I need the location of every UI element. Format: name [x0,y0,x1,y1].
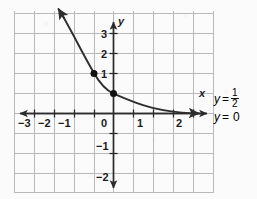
x-tick-label--1: −1 [58,118,71,129]
y-tick-label--2: −2 [96,172,109,183]
base-fraction-annotation: y = 1 2 [214,88,239,109]
asymptote-variable: y [214,110,220,124]
x-tick-label--2: −2 [38,118,51,129]
asymptote-operator: = [222,110,229,124]
x-tick-label-0: 0 [101,118,107,129]
y-tick-label-2: 2 [101,49,107,60]
x-tick-label-2: 2 [176,118,182,129]
asymptote-annotation: y = 0 [214,110,242,124]
data-point-0-1 [110,90,117,97]
fraction-denominator: 2 [231,98,239,109]
data-point-neg1-2 [91,70,98,77]
x-axis-name: x [199,88,205,99]
base-operator: = [222,92,229,106]
y-axis [110,22,118,188]
base-variable: y [214,92,220,106]
x-tick-label--3: −3 [18,118,31,129]
graph-figure: −3 −2 −1 0 1 2 3 2 1 −1 −2 y x y = 1 2 y… [0,0,257,199]
y-tick-label--1: −1 [96,141,109,152]
fraction-numerator: 1 [231,88,239,98]
y-tick-label-3: 3 [101,29,107,40]
x-tick-label-1: 1 [137,118,143,129]
asymptote-value: 0 [233,110,240,124]
exponential-curve [59,9,200,114]
y-axis-name: y [118,16,124,27]
one-half-fraction: 1 2 [231,88,239,109]
y-tick-label-1: 1 [101,69,107,80]
